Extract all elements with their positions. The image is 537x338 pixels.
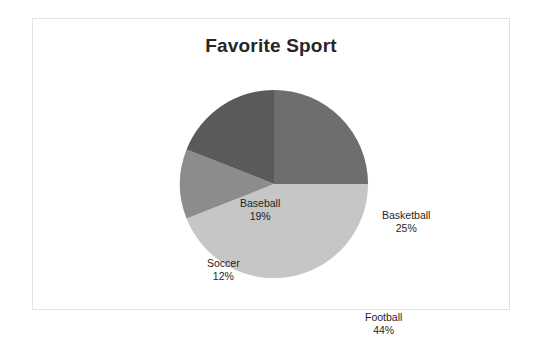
slice-label-basketball-value: 25%: [382, 222, 430, 235]
pie-svg: [179, 89, 369, 279]
slice-label-football-name: Football: [365, 311, 402, 324]
slice-label-football-value: 44%: [365, 324, 402, 337]
slice-label-football: Football 44%: [365, 311, 402, 338]
slice-label-basketball-name: Basketball: [382, 209, 430, 222]
slice-label-basketball: Basketball 25%: [382, 209, 430, 236]
chart-frame: Favorite Sport Basketball 25% Football 4…: [32, 18, 510, 310]
chart-title: Favorite Sport: [33, 35, 509, 57]
pie-chart: Basketball 25% Football 44% Soccer 12% B…: [179, 89, 369, 279]
pie-slices: [180, 90, 368, 278]
pie-slice-basketball: [274, 90, 368, 184]
